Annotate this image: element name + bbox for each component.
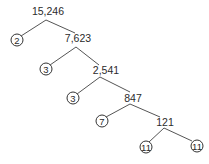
branch-line [164,128,192,141]
factor-tree-branches [0,0,209,164]
node-15246: 15,246 [32,6,64,17]
branch-line [77,77,100,94]
node-7623: 7,623 [65,33,91,44]
node-121: 121 [156,117,174,128]
branch-line [106,104,130,117]
branch-line [149,128,164,142]
prime-factor-circle: 11 [191,140,204,153]
branch-line [76,47,99,65]
node-2541: 2,541 [93,65,119,76]
node-847: 847 [124,93,142,104]
branch-line [100,77,130,92]
branch-line [21,20,46,36]
prime-factor-circle: 11 [140,141,153,154]
prime-factor-circle: 3 [40,63,53,76]
prime-factor-circle: 2 [11,34,24,47]
prime-factor-circle: 7 [96,115,109,128]
prime-factor-circle: 3 [67,92,80,105]
branch-line [50,47,76,65]
